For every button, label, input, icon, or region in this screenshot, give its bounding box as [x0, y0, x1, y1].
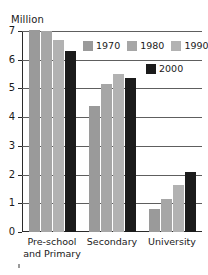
bar: [41, 31, 52, 232]
bar-chart: Million 76543210 Pre-schooland PrimarySe…: [0, 0, 208, 275]
y-axis-tick-label: 4: [9, 112, 15, 122]
page-corner-mark: [18, 264, 20, 268]
legend-label: 1980: [140, 41, 164, 51]
legend-swatch-icon: [83, 41, 93, 51]
legend-swatch-icon: [127, 41, 137, 51]
legend-item[interactable]: 2000: [146, 64, 183, 74]
legend-swatch-icon: [171, 41, 181, 51]
bar: [29, 30, 40, 232]
bar-group: [149, 31, 198, 232]
bar: [65, 51, 76, 232]
bar: [53, 40, 64, 232]
bar: [161, 199, 172, 232]
legend-label: 2000: [159, 64, 183, 74]
y-axis-tick-label: 1: [9, 198, 15, 208]
bar: [149, 209, 160, 232]
bar: [125, 78, 136, 232]
legend-label: 1970: [96, 41, 120, 51]
x-axis-label-line: Secondary: [82, 236, 142, 248]
y-axis-tick-label: 7: [9, 26, 15, 36]
x-axis-label-line: Pre-school: [22, 236, 82, 248]
y-axis-title: Million: [11, 14, 44, 25]
bar: [113, 74, 124, 232]
x-axis-label-line: University: [142, 236, 202, 248]
y-axis-tick: [18, 232, 22, 233]
x-axis-label-line: and Primary: [22, 248, 82, 260]
legend-swatch-icon: [146, 64, 156, 74]
bar-groups: [22, 31, 202, 232]
legend-item[interactable]: 1970: [83, 41, 120, 51]
legend-secondary-row: 2000: [146, 64, 183, 74]
bar: [101, 84, 112, 232]
legend-label: 1990: [184, 41, 208, 51]
y-axis-tick-label: 5: [9, 83, 15, 93]
x-axis-label: University: [142, 236, 202, 248]
bar-group: [29, 31, 78, 232]
y-axis-tick-label: 3: [9, 141, 15, 151]
x-axis-label: Secondary: [82, 236, 142, 248]
bar: [185, 172, 196, 232]
y-axis-tick-label: 0: [9, 227, 15, 237]
bar: [89, 106, 100, 232]
plot-area: 76543210: [22, 31, 202, 232]
y-axis-tick-label: 2: [9, 170, 15, 180]
legend-item[interactable]: 1980: [127, 41, 164, 51]
legend-item[interactable]: 1990: [171, 41, 208, 51]
bar: [173, 185, 184, 232]
y-axis-tick-label: 6: [9, 55, 15, 65]
bar-group: [89, 31, 138, 232]
legend-primary-row: 197019801990: [83, 41, 208, 51]
x-axis-label: Pre-schooland Primary: [22, 236, 82, 259]
